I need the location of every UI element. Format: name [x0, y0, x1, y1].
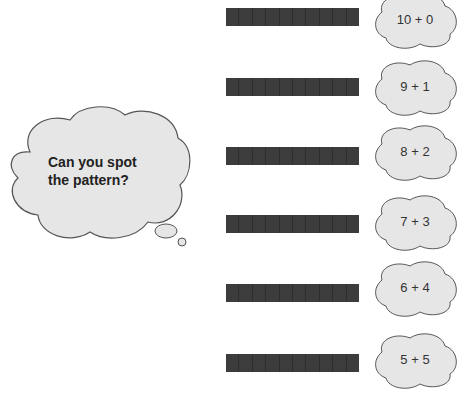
bar-segment: [347, 8, 359, 26]
bar-segment: [239, 215, 252, 233]
sum-label: 9 + 1: [370, 79, 460, 94]
bar-segment: [306, 354, 319, 372]
bar-segment: [280, 354, 293, 372]
bar-segment: [226, 215, 239, 233]
ten-bar: [226, 147, 359, 165]
ten-bar: [226, 8, 359, 26]
bar-segment: [293, 147, 306, 165]
bar-segment: [347, 147, 359, 165]
bar-segment: [280, 8, 293, 26]
thought-line-2: the pattern?: [48, 171, 137, 189]
bar-segment: [333, 78, 346, 96]
ten-bar: [226, 284, 359, 302]
bar-segment: [253, 78, 266, 96]
bar-segment: [253, 354, 266, 372]
bar-segment: [333, 284, 346, 302]
bar-segment: [266, 215, 279, 233]
bar-segment: [320, 215, 333, 233]
bar-segment: [306, 78, 319, 96]
bar-segment: [239, 354, 252, 372]
bar-segment: [320, 78, 333, 96]
bar-segment: [226, 8, 239, 26]
bar-segment: [266, 78, 279, 96]
bar-segment: [266, 8, 279, 26]
bar-segment: [306, 215, 319, 233]
bar-segment: [293, 8, 306, 26]
bar-segment: [333, 215, 346, 233]
bar-segment: [253, 8, 266, 26]
bar-segment: [226, 354, 239, 372]
bar-segment: [293, 284, 306, 302]
bar-segment: [253, 215, 266, 233]
bar-segment: [280, 284, 293, 302]
bar-segment: [239, 284, 252, 302]
bar-segment: [293, 78, 306, 96]
thought-line-1: Can you spot: [48, 153, 137, 171]
bar-segment: [293, 215, 306, 233]
bar-segment: [280, 147, 293, 165]
sum-label: 10 + 0: [370, 12, 460, 27]
sum-cloud: 9 + 1: [370, 57, 460, 117]
bar-segment: [333, 147, 346, 165]
bar-segment: [253, 284, 266, 302]
bar-segment: [226, 147, 239, 165]
bar-segment: [253, 147, 266, 165]
sum-label: 8 + 2: [370, 144, 460, 159]
bar-segment: [266, 354, 279, 372]
bar-segment: [293, 354, 306, 372]
bar-segment: [280, 215, 293, 233]
bar-segment: [226, 78, 239, 96]
sum-cloud: 6 + 4: [370, 258, 460, 318]
sum-cloud: 10 + 0: [370, 0, 460, 50]
bar-segment: [347, 78, 359, 96]
bar-segment: [266, 147, 279, 165]
bar-segment: [266, 284, 279, 302]
bar-segment: [239, 147, 252, 165]
ten-bar: [226, 354, 359, 372]
bar-segment: [280, 78, 293, 96]
bar-segment: [320, 354, 333, 372]
bar-segment: [347, 215, 359, 233]
bar-segment: [239, 8, 252, 26]
bar-segment: [239, 78, 252, 96]
thought-bubble-text: Can you spot the pattern?: [48, 153, 137, 189]
ten-bar: [226, 78, 359, 96]
bar-segment: [320, 8, 333, 26]
bar-segment: [347, 354, 359, 372]
bar-segment: [333, 8, 346, 26]
bar-segment: [226, 284, 239, 302]
bar-segment: [306, 147, 319, 165]
ten-bar: [226, 215, 359, 233]
bar-segment: [306, 8, 319, 26]
sum-label: 6 + 4: [370, 280, 460, 295]
sum-cloud: 5 + 5: [370, 330, 460, 390]
bar-segment: [320, 284, 333, 302]
bar-segment: [347, 284, 359, 302]
bar-segment: [320, 147, 333, 165]
sum-label: 5 + 5: [370, 352, 460, 367]
sum-cloud: 7 + 3: [370, 192, 460, 252]
bar-segment: [333, 354, 346, 372]
sum-label: 7 + 3: [370, 214, 460, 229]
sum-cloud: 8 + 2: [370, 122, 460, 182]
bar-segment: [306, 284, 319, 302]
